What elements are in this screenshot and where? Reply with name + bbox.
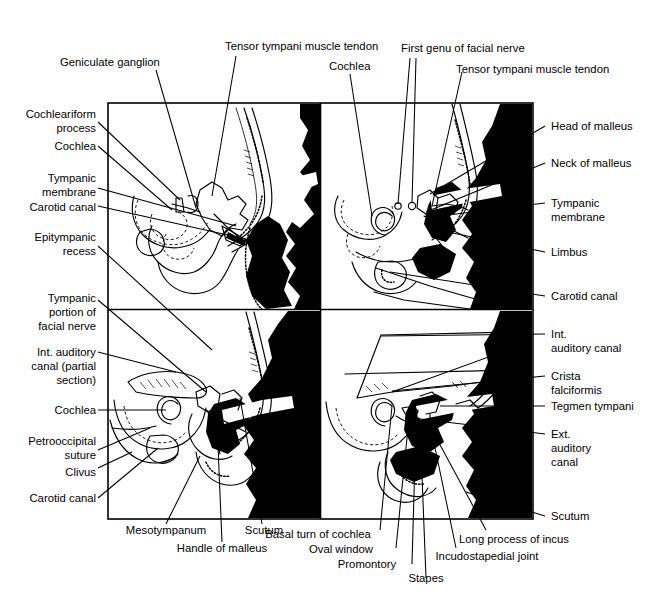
label-tensor-tympani-left: Tensor tympani muscle tendon [225,40,378,52]
label-tympanic-membrane-left-line1: Tympanic [48,172,97,184]
label-incudostapedial: Incudostapedial joint [435,550,539,562]
label-iac-line1: Int. [551,328,567,340]
label-oval-window: Oval window [309,543,374,555]
label-tympanic-portion-line3: facial nerve [38,320,96,332]
label-epitympanic-recess-line1: Epitympanic [34,231,96,243]
label-petrooccipital-line1: Petrooccipital [28,435,96,447]
label-scutum-right: Scutum [551,510,589,522]
label-tympanic-portion-line2: portion of [49,306,97,318]
temporal-bone-diagram-svg: Geniculate ganglion Tensor tympani muscl… [0,0,664,609]
label-mesotympanum: Mesotympanum [126,524,206,536]
label-iac-partial-line3: section) [56,374,96,386]
label-head-of-malleus: Head of malleus [551,120,633,132]
label-crista-line2: falciformis [551,384,602,396]
label-first-genu: First genu of facial nerve [401,42,525,54]
label-cochleariform-process-line2: process [56,122,96,134]
label-long-process: Long process of incus [459,533,569,545]
label-handle-of-malleus: Handle of malleus [177,542,268,554]
label-cochleariform-process-line1: Cochleariform [26,108,96,120]
label-iac-partial-line2: canal (partial [31,360,96,372]
label-tympanic-portion-line1: Tympanic [48,292,97,304]
label-limbus: Limbus [551,246,588,258]
label-crista-line1: Crista [551,370,581,382]
label-neck-of-malleus: Neck of malleus [551,157,632,169]
label-iac-line2: auditory canal [551,342,621,354]
label-geniculate-ganglion: Geniculate ganglion [60,56,160,68]
label-cochlea-lower-left: Cochlea [55,404,97,416]
label-eac-line3: canal [551,456,578,468]
label-petrooccipital-line2: suture [65,449,96,461]
label-eac-line1: Ext. [551,428,570,440]
label-carotid-canal-lower-left: Carotid canal [29,492,96,504]
label-epitympanic-recess-line2: recess [63,245,97,257]
label-carotid-canal-upper-left: Carotid canal [29,201,96,213]
label-cochlea-upper-left: Cochlea [55,140,97,152]
label-eac-line2: auditory [551,442,592,454]
label-tympanic-membrane-left-line2: membrane [42,186,96,198]
label-promontory: Promontory [338,558,397,570]
anatomical-figure: Geniculate ganglion Tensor tympani muscl… [0,0,664,609]
label-tympanic-membrane-right-line1: Tympanic [551,197,600,209]
label-clivus: Clivus [65,466,96,478]
label-tensor-tympani-right: Tensor tympani muscle tendon [456,63,609,75]
label-tegmen-tympani: Tegmen tympani [551,400,634,412]
label-iac-partial-line1: Int. auditory [37,346,96,358]
label-carotid-canal-right: Carotid canal [551,290,618,302]
label-cochlea-top: Cochlea [329,60,371,72]
label-basal-turn: Basal turn of cochlea [265,528,371,540]
label-stapes: Stapes [408,572,444,584]
label-tympanic-membrane-right-line2: membrane [551,211,605,223]
